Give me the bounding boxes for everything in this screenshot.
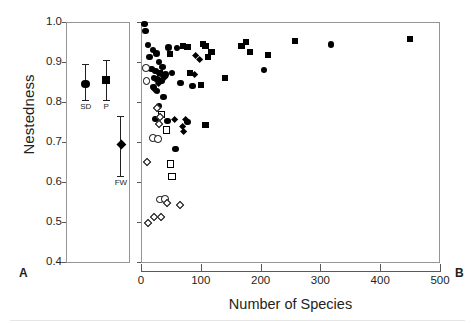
data-point-circle-filled <box>177 80 184 87</box>
x-tick-mark <box>261 264 262 272</box>
data-point-circle-filled <box>153 50 160 57</box>
data-point-square-filled <box>222 75 228 81</box>
data-point-circle-open <box>142 64 150 72</box>
data-point-square-filled <box>243 39 249 45</box>
x-tick-mark <box>380 264 381 272</box>
data-point-square-filled <box>292 38 298 44</box>
data-point-square-filled <box>202 122 208 128</box>
data-point-circle-filled <box>189 83 196 90</box>
data-point-square-filled <box>407 36 413 42</box>
y-tick-label: 0.6 <box>32 176 62 188</box>
data-point-square-filled <box>247 49 253 55</box>
x-axis-line <box>141 271 440 272</box>
data-point-circle-filled <box>81 80 90 89</box>
data-point-circle-filled <box>141 21 148 28</box>
figure-container: Nestedness 1.00.90.80.70.60.50.4 SDPFW A… <box>0 0 473 323</box>
x-tick-mark <box>201 264 202 272</box>
y-tick-label: 0.4 <box>32 256 62 268</box>
x-tick-label: 400 <box>360 274 400 286</box>
data-point-square-filled <box>184 44 190 50</box>
group-label-p: P <box>94 102 118 111</box>
error-bar-cap <box>82 100 89 101</box>
y-tick-label: 0.5 <box>32 216 62 228</box>
data-point-square-filled <box>265 52 271 58</box>
data-point-circle-filled <box>164 118 171 125</box>
panel-a-letter: A <box>19 266 28 280</box>
error-bar-cap <box>103 100 110 101</box>
data-point-square-filled <box>167 51 173 57</box>
group-label-fw: FW <box>109 178 133 187</box>
data-point-circle-open <box>154 135 162 143</box>
data-point-circle-filled <box>328 41 335 48</box>
panel-b-plot-area <box>141 22 440 263</box>
data-point-square-filled <box>205 54 211 60</box>
x-tick-label: 500 <box>420 274 460 286</box>
x-axis-label: Number of Species <box>141 296 440 312</box>
data-point-square-open <box>163 126 170 133</box>
data-point-circle-filled <box>146 54 153 61</box>
y-tick-label: 1.0 <box>32 16 62 28</box>
caption-rule <box>10 320 465 321</box>
data-point-square-filled <box>198 82 204 88</box>
error-bar-cap <box>117 116 124 117</box>
x-tick-label: 200 <box>241 274 281 286</box>
data-point-circle-open <box>143 77 151 85</box>
y-tick-label: 0.8 <box>32 96 62 108</box>
x-tick-mark <box>141 264 142 272</box>
data-point-square-filled <box>102 76 111 85</box>
x-tick-label: 300 <box>300 274 340 286</box>
data-point-square-open <box>168 173 175 180</box>
x-tick-mark <box>320 264 321 272</box>
x-tick-label: 0 <box>121 274 161 286</box>
y-tick-label: 0.7 <box>32 136 62 148</box>
x-tick-label: 100 <box>181 274 221 286</box>
data-point-square-open <box>167 160 174 167</box>
error-bar-cap <box>103 60 110 61</box>
x-tick-mark <box>440 264 441 272</box>
error-bar-cap <box>82 64 89 65</box>
y-tick-label: 0.9 <box>32 56 62 68</box>
error-bar-cap <box>117 176 124 177</box>
